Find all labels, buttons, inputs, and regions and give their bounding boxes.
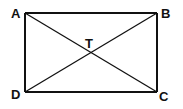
- vertex-label-c: C: [159, 89, 169, 104]
- rectangle-diagram: A B C D T: [0, 0, 183, 109]
- vertex-label-d: D: [11, 87, 20, 102]
- vertex-label-a: A: [11, 6, 21, 21]
- intersection-label-t: T: [85, 36, 93, 51]
- diagonals: [25, 13, 157, 92]
- vertex-label-b: B: [161, 6, 170, 21]
